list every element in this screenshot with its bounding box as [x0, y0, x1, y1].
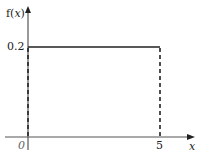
- x-tick-label-0: 0: [18, 140, 25, 151]
- x-tick-label-5: 5: [156, 140, 163, 151]
- y-tick-label: 0.2: [7, 41, 25, 52]
- y-axis-label-close: ): [21, 7, 25, 20]
- y-axis-arrow-icon: [25, 6, 31, 13]
- y-axis-label: f(x): [6, 8, 25, 19]
- x-axis-label: x: [189, 141, 195, 152]
- chart-canvas: [0, 0, 199, 157]
- uniform-pdf-chart: f(x) 0.2 0 5 x: [0, 0, 199, 157]
